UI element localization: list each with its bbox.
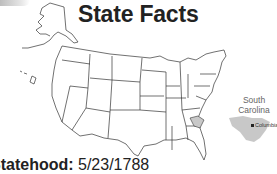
alaska-shape <box>22 3 78 48</box>
state-name-label: South Carolina <box>232 95 276 115</box>
south-carolina-inset-shape <box>229 116 270 142</box>
capital-label: Columbia <box>251 122 277 128</box>
capital-star-icon <box>251 124 254 127</box>
capital-name: Columbia <box>255 122 277 128</box>
lower48-outline <box>52 46 226 160</box>
statehood-fact: Statehood: 5/23/1788 <box>0 156 149 174</box>
statehood-label: Statehood: <box>0 156 74 173</box>
statehood-value: 5/23/1788 <box>78 156 149 173</box>
hawaii-shape <box>20 71 36 84</box>
state-borders <box>62 54 216 150</box>
page-title: State Facts <box>78 1 199 28</box>
